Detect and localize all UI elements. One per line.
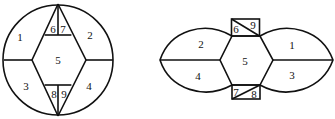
region-label: 1 [17,31,23,43]
region-label: 9 [250,19,256,31]
region-label: 6 [50,23,56,35]
region-label: 6 [233,23,239,35]
region-label: 4 [195,70,201,82]
region-label: 7 [233,86,239,98]
region-label: 2 [198,38,204,50]
region-label: 5 [55,54,61,66]
region-label: 3 [23,80,29,92]
region-diagrams: 1 2 3 4 5 6 7 8 9 2 1 4 3 5 [0,0,335,119]
region-label: 8 [251,88,257,100]
region-label: 1 [289,39,295,51]
region-label: 5 [242,55,248,67]
region-label: 4 [86,80,92,92]
region-label: 8 [51,88,57,100]
region-label: 3 [289,69,295,81]
region-label: 7 [60,23,66,35]
region-label: 2 [87,29,93,41]
region-label: 9 [61,88,67,100]
circle-figure: 1 2 3 4 5 6 7 8 9 [3,4,113,116]
lens-figure: 2 1 4 3 5 6 9 7 8 [160,19,333,100]
left-figure-labels: 1 2 3 4 5 6 7 8 9 [17,23,93,100]
